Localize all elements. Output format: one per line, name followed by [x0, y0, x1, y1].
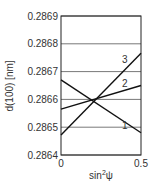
y-tick-label: 0.2868 — [27, 38, 58, 49]
y-tick-label: 0.2865 — [27, 122, 58, 133]
x-axis-label: sin2ψ — [89, 169, 113, 181]
y-axis-label: d(100) [nm] — [4, 60, 15, 111]
y-tick-label: 0.2864 — [27, 150, 58, 161]
data-lines — [61, 53, 141, 135]
series-line-3 — [61, 53, 141, 135]
x-tick-label: 0.5 — [134, 158, 148, 169]
x-tick-label: 0 — [58, 158, 64, 169]
series-label-1: 1 — [122, 120, 128, 131]
series-line-1 — [61, 80, 141, 133]
y-tick-label: 0.2866 — [27, 94, 58, 105]
y-tick-labels: 0.28690.28680.28670.28660.28650.2864 — [27, 11, 58, 161]
series-label-2: 2 — [122, 78, 128, 89]
y-tick-label: 0.2869 — [27, 11, 58, 22]
x-tick-labels: 00.5 — [58, 158, 148, 169]
series-labels: 123 — [122, 54, 128, 131]
series-label-3: 3 — [122, 54, 128, 65]
y-tick-label: 0.2867 — [27, 66, 58, 77]
plot-frame — [61, 16, 141, 155]
chart: 0.28690.28680.28670.28660.28650.2864 00.… — [0, 0, 152, 183]
gridlines — [61, 16, 141, 155]
